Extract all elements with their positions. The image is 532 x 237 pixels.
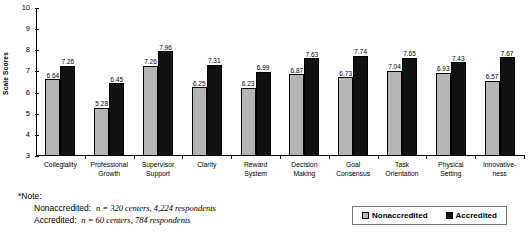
bar-group: 6.577.67 [475,8,524,156]
bar-nonaccredited: 6.87 [289,74,304,156]
bar-nonaccredited: 7.26 [143,66,158,156]
x-axis-category-label: Innovative- ness [475,160,524,178]
note-line2-value: n = 60 centers, 784 respondents [81,215,190,225]
bar-value-label: 6.99 [257,65,270,72]
x-axis-category-label: Collegiality [36,160,85,178]
legend-swatch-accredited-icon [446,212,453,219]
x-axis-category-labels: CollegialityProfessional GrowthSuperviso… [36,160,524,178]
bar-nonaccredited: 7.04 [387,71,402,156]
bar-pair: 6.877.63 [280,8,329,156]
bar-nonaccredited: 6.25 [192,87,207,156]
bar-pair: 6.647.26 [36,8,85,156]
bar-accredited: 7.63 [304,58,319,156]
y-axis-tick-label: 8 [26,47,30,55]
bar-pair: 7.047.65 [378,8,427,156]
bar-group: 5.286.45 [85,8,134,156]
bar-value-label: 7.04 [388,64,401,71]
bar-group: 6.647.26 [36,8,85,156]
bar-accredited: 6.45 [109,83,124,156]
bar-nonaccredited: 6.57 [485,81,500,156]
bar-value-label: 7.26 [144,59,157,66]
bar-value-label: 5.28 [95,101,108,108]
y-axis-title: Scale Scores [2,52,9,95]
bar-accredited: 7.67 [500,57,515,156]
chart-legend: Nonaccredited Accredited [352,206,507,225]
x-axis-tick-mark [85,155,86,159]
note-line2-label: Accredited: [34,215,77,225]
bar-nonaccredited: 6.73 [338,77,353,156]
x-axis-tick-mark [378,155,379,159]
bar-value-label: 7.63 [306,52,319,59]
note-block: *Note: Nonaccredited: n = 320 centers, 4… [18,190,216,226]
legend-item-nonaccredited: Nonaccredited [362,211,428,220]
y-axis-tick-label: 4 [26,131,30,139]
bar-accredited: 7.96 [158,51,173,156]
x-axis-tick-mark [475,155,476,159]
bar-accredited: 7.31 [207,65,222,156]
bar-group: 7.047.65 [378,8,427,156]
bar-pair: 6.257.31 [182,8,231,156]
x-axis-category-label: Decision Making [280,160,329,178]
legend-swatch-nonaccredited-icon [362,212,369,219]
legend-label-accredited: Accredited [456,211,497,220]
bar-value-label: 6.87 [291,68,304,75]
bar-value-label: 7.96 [159,45,172,52]
plot-area: 345678910 6.647.265.286.457.267.966.257.… [36,8,524,156]
x-axis-tick-mark [182,155,183,159]
bar-value-label: 7.74 [354,49,367,56]
x-axis-tick-mark [426,155,427,159]
x-axis-tick-mark [280,155,281,159]
bar-value-label: 6.23 [242,81,255,88]
bar-nonaccredited: 6.93 [436,73,451,156]
y-axis-tick-label: 7 [26,68,30,76]
x-axis-tick-mark [524,155,525,159]
bar-pair: 6.937.43 [426,8,475,156]
x-axis-category-label: Reward System [231,160,280,178]
x-axis-category-label: Task Orientation [378,160,427,178]
y-axis-tick-label: 3 [26,152,30,160]
bar-groups: 6.647.265.286.457.267.966.257.316.236.99… [36,8,524,156]
y-axis-tick-label: 10 [22,4,30,12]
bar-group: 6.877.63 [280,8,329,156]
bar-accredited: 6.99 [256,72,271,156]
legend-item-accredited: Accredited [446,211,497,220]
y-axis-tick-label: 5 [26,110,30,118]
y-axis-tick-label: 6 [26,89,30,97]
legend-label-nonaccredited: Nonaccredited [372,211,428,220]
bar-value-label: 6.73 [339,71,352,78]
bar-value-label: 7.67 [501,51,514,58]
bar-pair: 6.577.67 [475,8,524,156]
bar-pair: 7.267.96 [134,8,183,156]
bar-value-label: 6.93 [437,66,450,73]
note-line-accredited: Accredited: n = 60 centers, 784 responde… [34,214,216,226]
bar-group: 6.937.43 [426,8,475,156]
bar-value-label: 7.26 [62,59,75,66]
bar-accredited: 7.65 [402,58,417,156]
bar-group: 7.267.96 [134,8,183,156]
bar-value-label: 7.65 [403,51,416,58]
x-axis-tick-mark [134,155,135,159]
bar-accredited: 7.26 [60,66,75,156]
bar-chart: Scale Scores 345678910 6.647.265.286.457… [0,0,532,237]
bar-pair: 5.286.45 [85,8,134,156]
bar-value-label: 6.45 [110,77,123,84]
bar-group: 6.236.99 [231,8,280,156]
bar-value-label: 7.31 [208,58,221,65]
bar-value-label: 6.25 [193,81,206,88]
y-axis-tick-mark [35,156,39,157]
bar-accredited: 7.43 [451,62,466,156]
x-axis-category-label: Supervisor Support [134,160,183,178]
y-axis-tick-label: 9 [26,25,30,33]
x-axis-tick-mark [329,155,330,159]
x-axis-category-label: Goal Consensus [329,160,378,178]
bar-group: 6.257.31 [182,8,231,156]
x-axis-tick-mark [231,155,232,159]
bar-nonaccredited: 6.23 [241,88,256,156]
x-axis-category-label: Professional Growth [85,160,134,178]
bar-value-label: 6.64 [47,73,60,80]
bar-accredited: 7.74 [353,56,368,156]
bar-nonaccredited: 5.28 [94,108,109,156]
note-header: *Note: [18,190,216,202]
bar-pair: 6.236.99 [231,8,280,156]
bar-group: 6.737.74 [329,8,378,156]
